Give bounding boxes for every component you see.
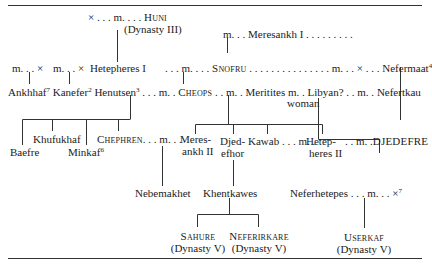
- marriage-link: . . m. .: [215, 86, 243, 98]
- marriage-link: × . . . m. . . .: [88, 11, 144, 23]
- person-userkaf: Userkaf: [333, 231, 395, 243]
- person-hetepheres-i: Hetepheres I: [90, 62, 146, 74]
- dots: . . . . . . . . . . . . . . .: [249, 62, 329, 74]
- person-ankhhaf: Ankhhaf7: [8, 86, 50, 98]
- person-kawab: Kawab: [248, 135, 279, 147]
- person-minkaf: Minkaf6: [68, 146, 104, 158]
- person-djedefhor: Djed-: [220, 135, 245, 147]
- person-neferhetepes: Neferhetepes . . . m. . . ×: [290, 187, 399, 199]
- person-kanefer: Kanefer2: [53, 86, 92, 98]
- person-meritites: Meritites: [245, 86, 285, 98]
- person-baefre: Baefre: [10, 146, 39, 158]
- marriage-link-kanefer: m. . . ×: [53, 62, 84, 74]
- person-hetepheres-ii-line2: heres II: [309, 147, 342, 159]
- person-khentkawes: Khentkawes: [203, 187, 257, 199]
- marriage-link-snofru: . . . m. . . . Snofru . . . . . . . . . …: [165, 62, 432, 74]
- person-khufukhaf: Khufukhaf: [33, 133, 81, 145]
- footnote: 3: [136, 86, 140, 94]
- marriage-link: . . . m. .: [142, 86, 175, 98]
- chephren-line: Chephren. . . m. . .: [97, 133, 182, 145]
- footnote: 2: [88, 86, 92, 94]
- person-henutsen: Henutsen3: [94, 86, 139, 98]
- huni-line: × . . . m. . . . Huni: [88, 11, 167, 23]
- person-meresankh-ii-line2: ankh II: [182, 145, 213, 157]
- name: Nefermaat: [382, 62, 428, 74]
- person-meresankh-ii: Meres-: [180, 133, 211, 145]
- dots: . . . m. . . .: [165, 62, 209, 74]
- neferhetepes-line: Neferhetepes . . . m. . . ×7: [290, 187, 402, 199]
- huni-dynasty: (Dynasty III): [124, 23, 182, 35]
- row-cheops-generation: Ankhhaf7 Kanefer2 Henutsen3 . . . m. . C…: [8, 86, 421, 98]
- name: Kanefer: [53, 86, 88, 98]
- marriage-link: . . . m. . .: [143, 133, 182, 145]
- marriage-link: m. . . × . . .: [332, 62, 380, 74]
- name: Ankhhaf: [8, 86, 47, 98]
- person-sahure: Sahure: [167, 230, 229, 242]
- person-nebemakhet: Nebemakhet: [135, 187, 191, 199]
- person-nefertkau: Nefertkau: [377, 86, 421, 98]
- sahure-dynasty: (Dynasty V): [167, 242, 229, 254]
- name: Minkaf: [68, 146, 100, 158]
- libyan-woman-line2: woman: [287, 97, 319, 109]
- person-chephren: Chephren: [97, 133, 143, 145]
- footnote: 7: [47, 86, 51, 94]
- neferirkare-dynasty: (Dynasty V): [228, 242, 290, 254]
- userkaf-dynasty: (Dynasty V): [333, 243, 395, 255]
- footnote: 7: [399, 187, 403, 195]
- person-djedefhor-line2: efhor: [221, 147, 244, 159]
- marriage-link: . . m. .: [345, 135, 373, 147]
- person-djedefre: Djedefre: [373, 135, 428, 147]
- name: Henutsen: [94, 86, 136, 98]
- person-huni: Huni: [144, 11, 167, 23]
- marriage-link-ankhhaf: m. . . ×: [12, 62, 43, 74]
- person-meresankh-i: m. . . Meresankh I . . . . . . . . .: [223, 28, 353, 40]
- person-snofru: Snofru: [212, 62, 246, 74]
- person-hetepheres-ii: Hetep-: [306, 135, 336, 147]
- person-cheops: Cheops: [178, 86, 212, 98]
- person-nefermaat: Nefermaat4: [382, 62, 432, 74]
- footnote: 6: [100, 146, 104, 154]
- djedefre-line: . . m. .Djedefre: [345, 135, 428, 147]
- person-neferirkare: Neferirkare: [223, 230, 295, 242]
- marriage-link: m. .: [357, 86, 374, 98]
